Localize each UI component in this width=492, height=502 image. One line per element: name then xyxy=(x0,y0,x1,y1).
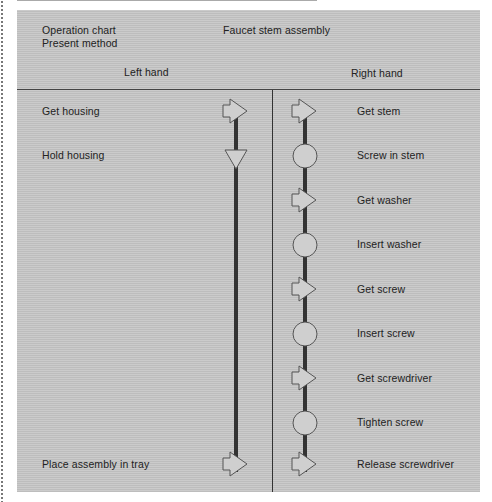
transport-arrow-icon xyxy=(291,276,317,304)
right-hand-header: Right hand xyxy=(351,67,403,79)
right-step-label: Insert screw xyxy=(357,327,415,339)
transport-arrow-icon xyxy=(291,451,317,479)
transport-arrow-icon xyxy=(291,365,317,393)
transport-arrow-icon xyxy=(291,98,317,126)
right-step-label: Get washer xyxy=(357,194,412,206)
right-step-label: Screw in stem xyxy=(357,149,424,161)
hold-triangle-icon xyxy=(224,149,248,171)
operation-circle-icon xyxy=(292,143,318,169)
chart-title: Operation chart xyxy=(42,24,116,36)
operation-circle-icon xyxy=(292,232,318,258)
header-divider xyxy=(17,89,480,90)
right-step-label: Release screwdriver xyxy=(357,458,454,470)
top-edge xyxy=(17,0,317,4)
operation-circle-icon xyxy=(292,321,318,347)
right-step-label: Get stem xyxy=(357,105,400,117)
chart-method: Present method xyxy=(42,37,118,49)
chart-subject: Faucet stem assembly xyxy=(223,24,330,36)
right-step-label: Insert washer xyxy=(357,238,421,250)
transport-arrow-icon xyxy=(291,187,317,215)
column-divider xyxy=(272,90,273,492)
left-step-label: Hold housing xyxy=(42,149,105,161)
transport-arrow-icon xyxy=(222,451,248,479)
binding-dots xyxy=(0,0,4,502)
right-step-label: Get screwdriver xyxy=(357,372,432,384)
right-step-label: Get screw xyxy=(357,283,405,295)
right-step-label: Tighten screw xyxy=(357,416,423,428)
left-step-label: Get housing xyxy=(42,105,100,117)
transport-arrow-icon xyxy=(222,98,248,126)
operation-circle-icon xyxy=(292,410,318,436)
left-step-label: Place assembly in tray xyxy=(42,458,149,470)
left-hand-header: Left hand xyxy=(124,66,169,78)
